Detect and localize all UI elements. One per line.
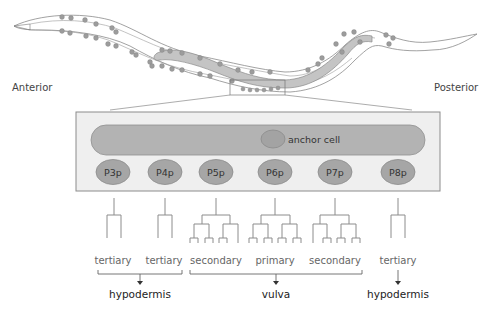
cell-label: P3p: [104, 167, 122, 178]
fate-label-p8p: tertiary: [379, 255, 416, 266]
cell-p6p: P6p: [258, 160, 292, 185]
lineage-p7p: [313, 198, 360, 243]
fate-brackets: [98, 270, 398, 282]
arrowhead-center: [273, 281, 279, 285]
outcome-label-right: hypodermis: [367, 288, 429, 300]
arrowhead-left: [137, 281, 143, 285]
fate-label-p3p: tertiary: [94, 255, 131, 266]
cell-p3p: P3p: [96, 160, 130, 185]
cell-label: P4p: [156, 167, 174, 178]
magnified-region: anchor cell P3p P4p P5p P6p P7p: [76, 112, 440, 191]
cell-p4p: P4p: [148, 160, 182, 185]
cell-label: P5p: [207, 167, 225, 178]
lineage-p3p: [107, 198, 121, 238]
lineage-p5p: [190, 198, 238, 243]
outcome-label-center: vulva: [262, 288, 290, 300]
cell-label: P7p: [326, 167, 344, 178]
cell-label: P6p: [266, 167, 284, 178]
posterior-label: Posterior: [434, 82, 479, 93]
bracket-vulva: [190, 270, 362, 274]
anterior-label: Anterior: [12, 82, 53, 93]
lineage-p8p: [391, 198, 405, 238]
zoom-line-right: [285, 95, 412, 110]
cell-p7p: P7p: [318, 160, 352, 185]
bracket-hypodermis-left: [98, 270, 182, 274]
arrowheads: [137, 281, 401, 285]
gonad: [91, 125, 425, 155]
cell-label: P8p: [389, 167, 407, 178]
fate-label-p7p: secondary: [309, 255, 361, 266]
fate-label-p5p: secondary: [190, 255, 242, 266]
cell-p8p: P8p: [381, 160, 415, 185]
outcome-label-left: hypodermis: [109, 288, 171, 300]
lineage-trees: [107, 198, 405, 243]
anchor-cell: [261, 130, 285, 148]
zoom-line-left: [110, 95, 230, 110]
fate-label-p6p: primary: [255, 255, 294, 266]
anchor-cell-label: anchor cell: [288, 134, 340, 145]
lineage-p4p: [158, 198, 172, 238]
cell-p5p: P5p: [199, 160, 233, 185]
arrowhead-right: [395, 281, 401, 285]
vulval-lineage-diagram: Anterior Posterior anchor cell P3p P4p P…: [0, 0, 487, 311]
fate-label-p4p: tertiary: [145, 255, 182, 266]
worm-illustration: [14, 15, 477, 95]
lineage-p6p: [249, 198, 301, 243]
